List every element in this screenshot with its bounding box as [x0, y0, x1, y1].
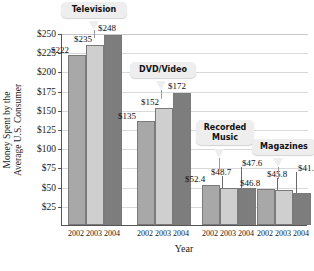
- category-callout: DVD/Video: [130, 62, 196, 78]
- y-axis-tick-mark: [58, 92, 62, 93]
- callout-stem: [161, 90, 162, 99]
- x-axis-tick-label: 2002: [255, 229, 275, 238]
- bar: [293, 193, 311, 225]
- bar-value-label: $222: [51, 45, 69, 55]
- bar: [155, 108, 173, 225]
- bar: [220, 188, 238, 225]
- bar: [68, 55, 86, 225]
- value-leader-line: [277, 178, 278, 190]
- x-axis-title: Year: [61, 243, 307, 254]
- bar-value-label: $47.6: [242, 158, 262, 168]
- category-callout: Recorded Music: [196, 120, 254, 145]
- bar-value-label: $248: [98, 23, 116, 33]
- x-axis-tick-label: 2004: [102, 229, 122, 238]
- y-axis-tick-mark: [58, 130, 62, 131]
- y-axis-tick-mark: [58, 207, 62, 208]
- bar: [104, 35, 122, 225]
- y-axis-tick-label: $75: [42, 163, 56, 173]
- bar-value-label: $235: [74, 34, 92, 44]
- value-leader-line: [222, 176, 223, 188]
- y-axis-tick-mark: [58, 149, 62, 150]
- bar-value-label: $46.8: [240, 178, 260, 188]
- y-axis-tick-label: $150: [37, 106, 56, 116]
- y-axis-tick-label: $175: [37, 87, 56, 97]
- category-callout: Magazines: [252, 139, 314, 155]
- x-axis-tick-label: 2002: [200, 229, 220, 238]
- y-axis-title-line-2: Average U.S. Consumer: [13, 84, 25, 176]
- y-axis-tick-mark: [58, 188, 62, 189]
- y-axis-tick-label: $50: [42, 183, 56, 193]
- callout-tail: [89, 21, 99, 30]
- y-axis-tick-mark: [58, 72, 62, 73]
- bar: [137, 121, 155, 225]
- y-axis-title: Money Spent by the Average U.S. Consumer: [0, 34, 26, 226]
- y-axis-tick-label: $125: [37, 125, 56, 135]
- bar-value-label: $52.4: [185, 174, 205, 184]
- value-leader-line: [296, 172, 297, 193]
- x-axis-tick-label: 2003: [273, 229, 293, 238]
- x-axis-tick-label: 2002: [66, 229, 86, 238]
- y-axis-tick-mark: [58, 168, 62, 169]
- x-axis-tick-label: 2004: [236, 229, 256, 238]
- bar: [257, 189, 275, 225]
- x-axis-tick-label: 2003: [84, 229, 104, 238]
- x-axis-tick-label: 2003: [153, 229, 173, 238]
- bar-value-label: $172: [168, 81, 186, 91]
- x-axis-tick-label: 2002: [135, 229, 155, 238]
- y-axis-tick-label: $250: [37, 29, 56, 39]
- y-axis-tick-label: $100: [37, 144, 56, 154]
- callout-stem: [278, 167, 279, 179]
- x-axis-tick-label: 2004: [171, 229, 191, 238]
- bar: [238, 188, 256, 225]
- callout-stem: [94, 30, 95, 38]
- bar: [86, 45, 104, 225]
- x-axis-tick-label: 2004: [291, 229, 311, 238]
- bar-value-label: $152: [141, 97, 159, 107]
- y-axis-tick-mark: [58, 111, 62, 112]
- callout-tail: [273, 158, 283, 167]
- y-axis-title-line-1: Money Spent by the: [2, 84, 14, 176]
- bar-value-label: $135: [118, 111, 136, 121]
- callout-tail: [214, 149, 224, 158]
- x-axis-tick-label: 2003: [218, 229, 238, 238]
- y-axis-tick-label: $200: [37, 67, 56, 77]
- callout-stem: [219, 158, 220, 170]
- bar-chart: Money Spent by the Average U.S. Consumer…: [0, 0, 314, 271]
- bar: [275, 190, 293, 225]
- bar-value-label: $41.2: [298, 163, 314, 173]
- y-axis-tick-label: $25: [42, 202, 56, 212]
- callout-tail: [156, 81, 166, 90]
- gridline: [62, 34, 308, 35]
- y-axis-tick-mark: [58, 34, 62, 35]
- bar: [173, 93, 191, 225]
- bar: [202, 185, 220, 225]
- category-callout: Television: [61, 2, 127, 18]
